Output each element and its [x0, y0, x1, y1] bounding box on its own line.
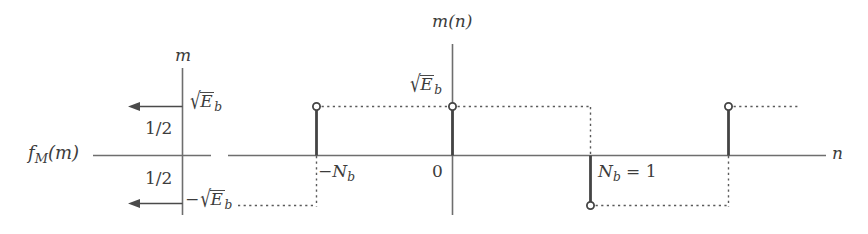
left-horizontal-axis-label: fM(m)	[28, 144, 79, 166]
upper-impulse-weight-label: 1/2	[145, 120, 172, 137]
stem-marker-Nb	[587, 202, 594, 209]
upper-impulse-position-label: √Eb	[189, 92, 222, 113]
radical-sign-icon: √	[190, 90, 201, 113]
upper-impulse-arrowhead	[128, 102, 140, 111]
right-vertical-axis-label: m(n)	[432, 13, 472, 30]
lower-impulse-arrowhead	[128, 199, 140, 208]
figure-canvas: m fM(m) 1/2 √Eb 1/2 −√Eb m(n) n √Eb −Nb …	[0, 0, 868, 234]
tick-label-Nb-equals-one: Nb = 1	[598, 163, 657, 183]
right-horizontal-axis-label: n	[832, 145, 843, 162]
radical-sign-icon: √	[410, 73, 421, 96]
stem-marker-zero	[449, 103, 456, 110]
stem-marker-minus-Nb	[313, 103, 320, 110]
stem-marker-last-sample	[725, 103, 732, 110]
lower-impulse-weight-label: 1/2	[145, 170, 172, 187]
guide-lines	[238, 107, 800, 208]
radical-sign-icon: √	[200, 188, 211, 211]
left-vertical-axis-label: m	[175, 47, 191, 64]
tick-label-zero: 0	[432, 163, 443, 180]
lower-impulse-position-label: −√Eb	[185, 190, 232, 211]
tick-label-minus-Nb: −Nb	[318, 163, 355, 183]
figure-graphics	[0, 0, 868, 234]
amplitude-level-label: √Eb	[409, 75, 442, 96]
